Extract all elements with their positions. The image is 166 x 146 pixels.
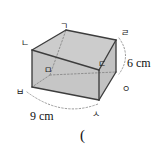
cuboid-figure: ㄱ ㄴ ㄷ ㄹ ㅁ ㅂ ㅅ ㅇ 6 cm 9 cm (	[0, 0, 166, 146]
vertex-label-m: ㅁ	[44, 66, 52, 75]
width-dimension-label: 9 cm	[30, 110, 54, 122]
vertex-label-n: ㄴ	[21, 39, 29, 48]
vertex-label-o: ㅇ	[122, 85, 130, 94]
vertex-label-g: ㄱ	[60, 22, 68, 31]
vertex-label-d: ㄷ	[98, 60, 106, 69]
answer-parenthesis: (	[80, 128, 85, 143]
height-dim-brace	[119, 38, 126, 74]
height-dimension-label: 6 cm	[127, 57, 151, 69]
cuboid-drawing	[0, 0, 166, 146]
vertex-label-b: ㅂ	[16, 88, 24, 97]
vertex-label-s: ㅅ	[92, 110, 100, 119]
vertex-label-r: ㄹ	[121, 29, 129, 38]
